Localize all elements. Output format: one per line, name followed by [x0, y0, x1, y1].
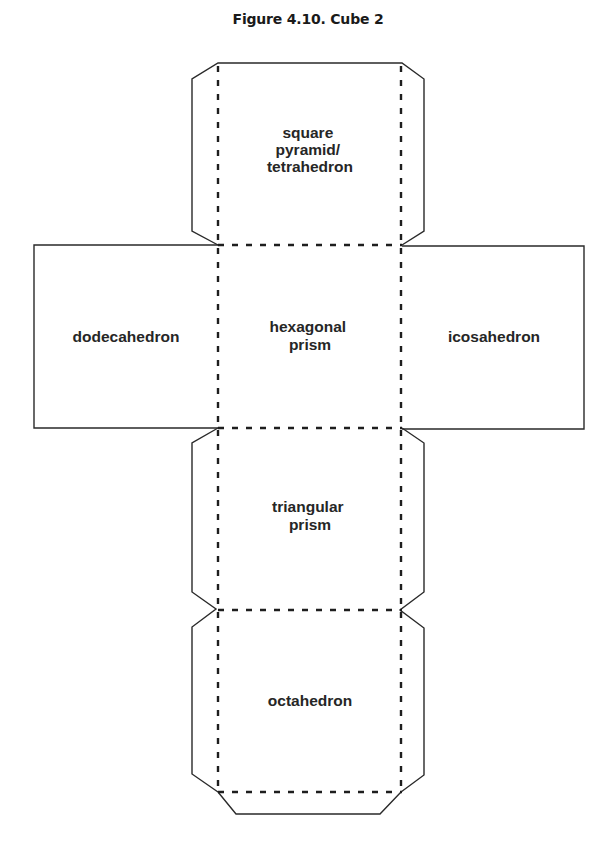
face-label-top: square pyramid/ tetrahedron	[267, 124, 353, 175]
face-label-lower-middle: triangular prism	[272, 498, 348, 533]
face-label-right-line-1: icosahedron	[448, 328, 540, 345]
face-label-center: hexagonal prism	[270, 318, 351, 353]
lower-middle-right-edge	[400, 428, 424, 792]
face-label-bottom: octahedron	[268, 692, 352, 709]
face-label-bottom-line-1: octahedron	[268, 692, 352, 709]
face-label-center-line-1: hexagonal	[270, 318, 347, 335]
face-label-lower-middle-line-2: prism	[289, 516, 331, 533]
face-label-right: icosahedron	[448, 328, 540, 345]
face-label-left-line-1: dodecahedron	[73, 328, 180, 345]
face-label-left: dodecahedron	[73, 328, 180, 345]
cube-net-diagram: square pyramid/ tetrahedron dodecahedron…	[0, 0, 616, 860]
face-label-top-line-2: pyramid/	[276, 141, 341, 158]
face-label-lower-middle-line-1: triangular	[272, 498, 343, 515]
face-label-top-line-1: square	[282, 124, 333, 141]
bottom-tab-outline	[218, 792, 401, 814]
face-label-center-line-2: prism	[289, 336, 331, 353]
face-label-top-line-3: tetrahedron	[267, 158, 353, 175]
lower-middle-left-edge	[192, 428, 218, 792]
